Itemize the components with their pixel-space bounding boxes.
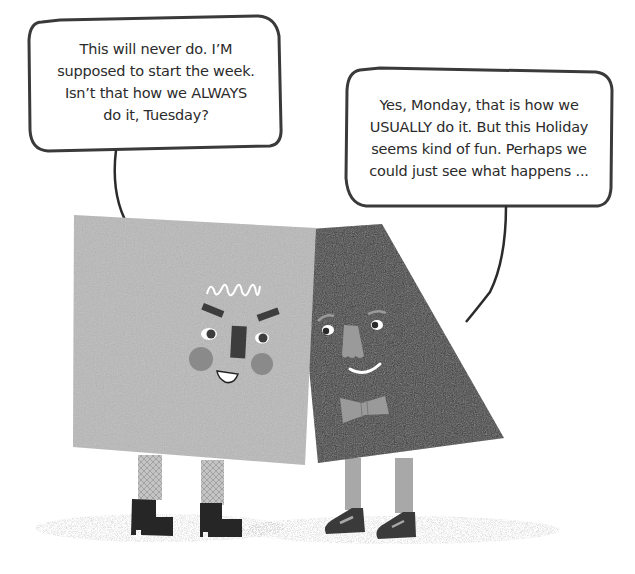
bubble-tail-tuesday bbox=[466, 206, 506, 322]
monday-leg-left bbox=[138, 455, 162, 500]
speech-text-tuesday: Yes, Monday, that is how we USUALLY do i… bbox=[350, 94, 608, 182]
monday-pupil-right bbox=[259, 334, 268, 343]
speech-text-monday: This will never do. I’M supposed to star… bbox=[34, 38, 278, 126]
speech-line: supposed to start the week. bbox=[34, 60, 278, 82]
speech-line: This will never do. I’M bbox=[34, 38, 278, 60]
tuesday-pupil-left bbox=[323, 328, 329, 334]
monday-nose bbox=[230, 326, 247, 359]
monday-boot-right bbox=[200, 503, 242, 537]
tuesday-leg-left bbox=[345, 458, 361, 510]
speech-line: could just see what happens ... bbox=[350, 160, 608, 182]
monday-cheek-left bbox=[189, 347, 213, 371]
tuesday-body bbox=[296, 224, 504, 463]
speech-line: do it, Tuesday? bbox=[34, 104, 278, 126]
monday-cheek-right bbox=[251, 353, 273, 375]
monday-leg-right bbox=[201, 460, 224, 505]
speech-line: seems kind of fun. Perhaps we bbox=[350, 138, 608, 160]
speech-line: USUALLY do it. But this Holiday bbox=[350, 116, 608, 138]
monday-body bbox=[73, 215, 316, 465]
speech-line: Isn’t that how we ALWAYS bbox=[34, 82, 278, 104]
tuesday-leg-right bbox=[395, 458, 413, 513]
monday-pupil-left bbox=[207, 330, 216, 339]
tuesday-pupil-right bbox=[372, 322, 378, 328]
speech-line: Yes, Monday, that is how we bbox=[350, 94, 608, 116]
